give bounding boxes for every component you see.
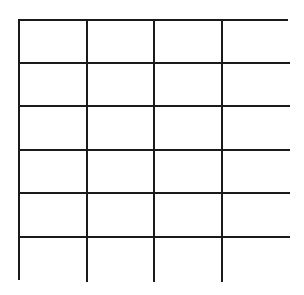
grid-cell-r6-c4 [223,238,290,282]
grid-cell-r5-c2 [88,194,155,238]
canvas [0,0,304,295]
grid-cell-r5-c4 [223,194,290,238]
grid-cell-r4-c3 [155,151,223,194]
grid-cell-r3-c4 [223,107,290,151]
grid-cell-r4-c2 [88,151,155,194]
grid-cell-r5-c1 [20,194,88,238]
grid-cell-r6-c2 [88,238,155,282]
grid-cell-r1-c2 [88,21,155,64]
grid-cell-r3-c2 [88,107,155,151]
grid-cell-r4-c1 [20,151,88,194]
grid-cell-r3-c1 [20,107,88,151]
grid-cell-r1-c1 [20,21,88,64]
empty-grid-table [18,19,288,280]
grid-cell-r6-c1 [20,238,88,282]
grid-cell-r6-c3 [155,238,223,282]
grid-cell-r2-c4 [223,64,290,107]
grid-cell-r2-c3 [155,64,223,107]
grid-cell-r3-c3 [155,107,223,151]
grid-cell-r2-c2 [88,64,155,107]
grid-cell-r5-c3 [155,194,223,238]
grid-cell-r2-c1 [20,64,88,107]
grid-cell-r1-c3 [155,21,223,64]
grid-cell-r1-c4 [223,21,290,64]
grid-cell-r4-c4 [223,151,290,194]
